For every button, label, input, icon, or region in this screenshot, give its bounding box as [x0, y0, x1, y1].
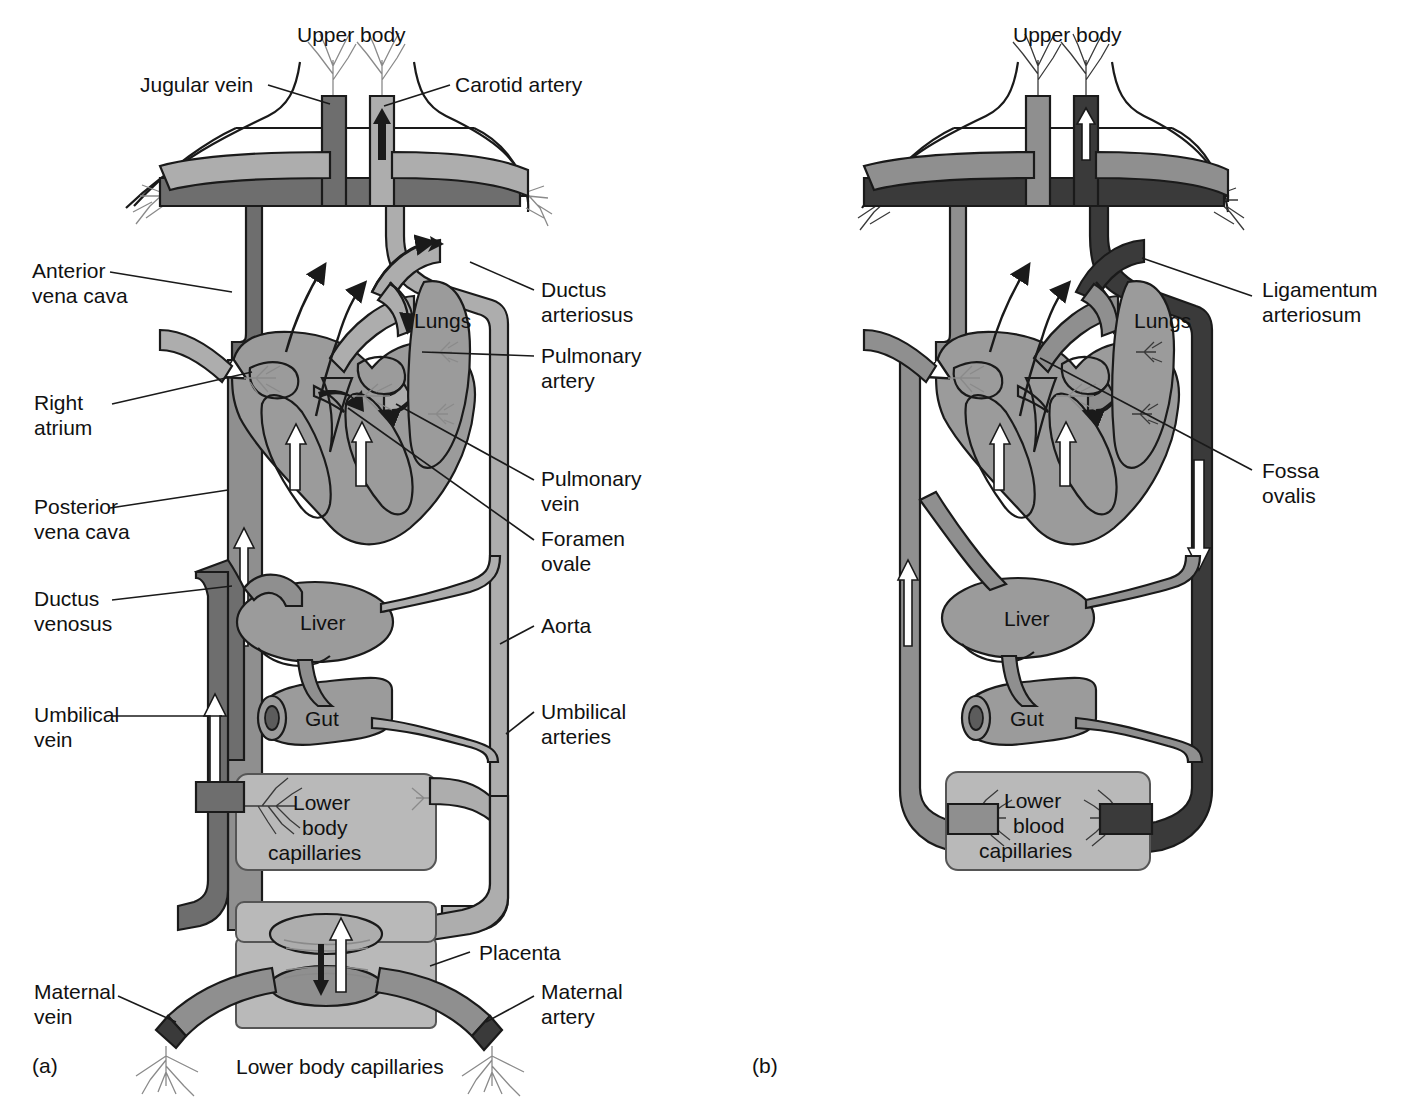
lbcb-box-label-line2: blood: [1013, 813, 1064, 838]
lungs-label-a: Lungs: [414, 308, 471, 333]
right-atrium-label-line1: Right: [34, 390, 83, 415]
anterior-vena-cava-label-line1: Anterior: [32, 258, 106, 283]
panel-label-b: (b): [752, 1054, 778, 1078]
umbilical-arteries-label-line1: Umbilical: [541, 699, 626, 724]
placenta-label: Placenta: [479, 940, 561, 965]
umbilical-arteries-label-line2: arteries: [541, 724, 611, 749]
maternal-vein-label-line1: Maternal: [34, 979, 116, 1004]
maternal-vein-label-line2: vein: [34, 1004, 73, 1029]
upper-body-label-b: Upper body: [1013, 22, 1122, 47]
carotid-artery-label: Carotid artery: [455, 72, 582, 97]
lead-ductus-arteriosus: [470, 262, 534, 290]
jugular-vein-label: Jugular vein: [140, 72, 253, 97]
liver-label-a: Liver: [300, 610, 346, 635]
ductus-venosus-label-line2: venosus: [34, 611, 112, 636]
lbc-vein-connector-b: [948, 804, 998, 834]
anterior-vena-cava-b: [936, 190, 966, 360]
lbcb-box-label-line3: capillaries: [979, 838, 1072, 863]
lbc-artery-connector-a: [430, 778, 490, 820]
ductus-arteriosus-label-line1: Ductus: [541, 277, 606, 302]
foramen-ovale-label-line1: Foramen: [541, 526, 625, 551]
panel-b-graphic: [858, 33, 1244, 870]
maternal-artery-label-line1: Maternal: [541, 979, 623, 1004]
mesenteric-artery-a: [372, 718, 498, 762]
ductus-arteriosus-label-line2: arteriosus: [541, 302, 633, 327]
hepatic-artery-a: [381, 556, 500, 612]
lead-posterior-vena-cava: [110, 490, 228, 508]
lbc-box-label-line3: capillaries: [268, 840, 361, 865]
fossa-ovalis-label-line1: Fossa: [1262, 458, 1319, 483]
foramen-ovale-label-line2: ovale: [541, 551, 591, 576]
lead-jugular-vein: [268, 85, 330, 104]
ligamentum-arteriosum-label-line2: arteriosum: [1262, 302, 1361, 327]
gut-label-a: Gut: [305, 706, 339, 731]
lungs-label-b: Lungs: [1134, 308, 1191, 333]
figure-canvas: .ol{stroke:#1a1a1a;stroke-width:2.2;fill…: [0, 0, 1402, 1109]
ligamentum-arteriosum-label-line1: Ligamentum: [1262, 277, 1378, 302]
right-atrium-label-line2: atrium: [34, 415, 92, 440]
panel-label-a: (a): [32, 1054, 58, 1078]
vena-cava-entry-a: [160, 330, 232, 382]
upper-body-label-a: Upper body: [297, 22, 406, 47]
anterior-vena-cava-label-line2: vena cava: [32, 283, 128, 308]
lbcb-box-label-line1: Lower: [1004, 788, 1061, 813]
pulmonary-artery-label-line1: Pulmonary: [541, 343, 641, 368]
umbilical-vein-label-line1: Umbilical: [34, 702, 119, 727]
lower-body-capillaries-caption: Lower body capillaries: [236, 1054, 444, 1079]
hepatic-portal-b: [920, 492, 1006, 590]
lbc-box-label-line1: Lower: [293, 790, 350, 815]
aorta-label: Aorta: [541, 613, 591, 638]
umbilical-vein-label-line2: vein: [34, 727, 73, 752]
gut-label-b: Gut: [1010, 706, 1044, 731]
posterior-vena-cava-label-line2: vena cava: [34, 519, 130, 544]
anterior-vena-cava-a: [232, 190, 262, 360]
lead-anterior-vena-cava: [110, 272, 232, 292]
fossa-ovalis-label-line2: ovalis: [1262, 483, 1316, 508]
lbc-vein-connector-a: [196, 782, 244, 812]
posterior-vena-cava-label-line1: Posterior: [34, 494, 118, 519]
pulmonary-vein-label-line1: Pulmonary: [541, 466, 641, 491]
lead-maternal-vein: [118, 996, 176, 1022]
lbc-box-label-line2: body: [302, 815, 348, 840]
leader-lines-a: [110, 85, 534, 1022]
lbc-artery-connector-b: [1100, 804, 1152, 834]
circulation-diagram-svg: .ol{stroke:#1a1a1a;stroke-width:2.2;fill…: [0, 0, 1402, 1109]
ductus-venosus-label-line1: Ductus: [34, 586, 99, 611]
mesenteric-artery-b: [1076, 718, 1202, 762]
panel-a-graphic: [126, 33, 552, 1096]
lead-maternal-artery: [486, 996, 534, 1022]
pulmonary-artery-label-line2: artery: [541, 368, 595, 393]
heart-a: [160, 236, 475, 544]
liver-label-b: Liver: [1004, 606, 1050, 631]
hepatic-artery-b: [1086, 556, 1200, 608]
maternal-artery-label-line2: artery: [541, 1004, 595, 1029]
lead-umbilical-arteries: [506, 712, 534, 734]
pulmonary-vein-label-line2: vein: [541, 491, 580, 516]
